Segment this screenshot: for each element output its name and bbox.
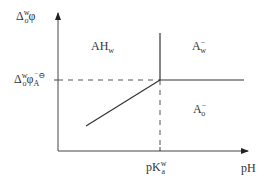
region-AHw: AHw bbox=[91, 40, 114, 52]
x-tick-label: pKwa bbox=[146, 161, 165, 173]
x-axis-label: pH bbox=[241, 162, 256, 174]
region-Ao: A−o bbox=[193, 103, 205, 115]
y-axis-label: Δwoφ bbox=[16, 10, 35, 22]
boundary-AHw-Ao bbox=[86, 80, 160, 126]
diagram-canvas bbox=[0, 0, 269, 182]
region-Aw: A−w bbox=[192, 40, 206, 52]
y-tick-label: ΔwoφA⁻⊖ bbox=[14, 73, 45, 85]
